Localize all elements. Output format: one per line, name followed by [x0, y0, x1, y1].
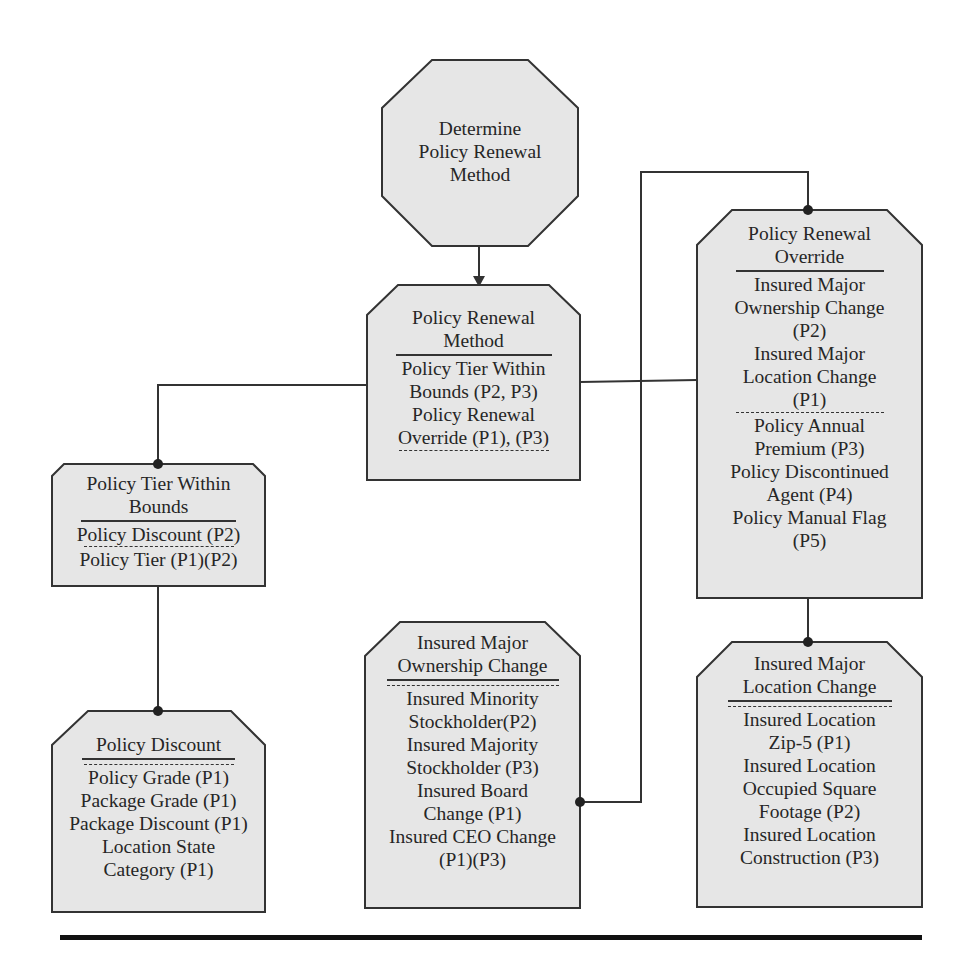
node-item: Package Discount (P1): [52, 812, 265, 835]
node-title: Ownership Change: [365, 654, 580, 677]
node-title: Policy Tier Within: [52, 472, 265, 495]
node-insured-major-location-change: Insured Major Location Change Insured Lo…: [697, 652, 922, 869]
title-divider: [387, 679, 559, 681]
connector-prm-ptwb: [158, 385, 367, 464]
node-title: Policy Renewal: [697, 222, 922, 245]
node-item: (P1): [697, 388, 922, 411]
title-divider: [396, 354, 552, 356]
title-divider: [728, 700, 892, 702]
node-item: Insured Major: [697, 273, 922, 296]
node-item: Insured CEO Change: [365, 825, 580, 848]
node-item: Change (P1): [365, 802, 580, 825]
node-item: Policy Annual: [697, 414, 922, 437]
key-divider: [84, 546, 234, 547]
node-item: Policy Discount (P2): [52, 523, 265, 546]
node-item: Policy Manual Flag: [697, 506, 922, 529]
node-item: Occupied Square: [697, 777, 922, 800]
node-item: Package Grade (P1): [52, 789, 265, 812]
key-divider: [728, 706, 892, 707]
dot-icon: [803, 205, 813, 215]
node-item: Insured Minority: [365, 687, 580, 710]
node-item: Premium (P3): [697, 437, 922, 460]
node-title: Location Change: [697, 675, 922, 698]
node-insured-major-ownership-change: Insured Major Ownership Change Insured M…: [365, 631, 580, 871]
title-divider: [736, 270, 884, 272]
node-title: Method: [367, 329, 580, 352]
title-divider: [81, 520, 236, 522]
start-line-3: Method: [382, 163, 578, 186]
connector-prm-pro: [580, 380, 697, 382]
key-divider: [84, 764, 234, 765]
node-item: (P5): [697, 529, 922, 552]
node-title: Insured Major: [365, 631, 580, 654]
node-policy-discount: Policy Discount Policy Grade (P1) Packag…: [52, 733, 265, 881]
node-policy-tier-within-bounds: Policy Tier Within Bounds Policy Discoun…: [52, 472, 265, 571]
node-item: Location Change: [697, 365, 922, 388]
node-item: Stockholder(P2): [365, 710, 580, 733]
node-item: Category (P1): [52, 858, 265, 881]
node-item: Policy Discontinued: [697, 460, 922, 483]
node-item: Insured Location: [697, 823, 922, 846]
node-item: Policy Tier (P1)(P2): [52, 548, 265, 571]
node-item: Zip-5 (P1): [697, 731, 922, 754]
start-node-label: Determine Policy Renewal Method: [382, 117, 578, 186]
dot-icon: [153, 706, 163, 716]
node-item: Insured Major: [697, 342, 922, 365]
node-item: Insured Majority: [365, 733, 580, 756]
title-divider: [82, 758, 235, 760]
node-item: Bounds (P2, P3): [367, 380, 580, 403]
node-item: Location State: [52, 835, 265, 858]
node-item: Override (P1), (P3): [367, 426, 580, 449]
node-item: Ownership Change: [697, 296, 922, 319]
key-divider: [399, 450, 549, 451]
start-line-1: Determine: [382, 117, 578, 140]
key-divider: [736, 412, 884, 413]
node-item: Stockholder (P3): [365, 756, 580, 779]
node-item: Footage (P2): [697, 800, 922, 823]
node-item: Insured Location: [697, 708, 922, 731]
node-item: Policy Renewal: [367, 403, 580, 426]
node-title: Override: [697, 245, 922, 268]
node-title: Policy Renewal: [367, 306, 580, 329]
node-item: Insured Location: [697, 754, 922, 777]
node-item: Policy Grade (P1): [52, 766, 265, 789]
key-divider: [387, 685, 559, 686]
node-item: (P1)(P3): [365, 848, 580, 871]
dot-icon: [153, 459, 163, 469]
node-item: Agent (P4): [697, 483, 922, 506]
node-item: (P2): [697, 319, 922, 342]
node-title: Bounds: [52, 495, 265, 518]
node-title: Policy Discount: [52, 733, 265, 756]
node-item: Policy Tier Within: [367, 357, 580, 380]
start-line-2: Policy Renewal: [382, 140, 578, 163]
node-policy-renewal-override: Policy Renewal Override Insured Major Ow…: [697, 222, 922, 552]
node-title: Insured Major: [697, 652, 922, 675]
dot-icon: [803, 637, 813, 647]
node-item: Insured Board: [365, 779, 580, 802]
node-item: Construction (P3): [697, 846, 922, 869]
node-policy-renewal-method: Policy Renewal Method Policy Tier Within…: [367, 306, 580, 452]
bottom-rule: [60, 935, 922, 940]
